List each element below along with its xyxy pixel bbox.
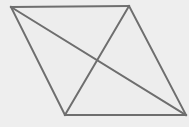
geometry-figure-svg <box>0 0 189 127</box>
figure-canvas <box>0 0 189 127</box>
top-edge <box>11 6 129 7</box>
